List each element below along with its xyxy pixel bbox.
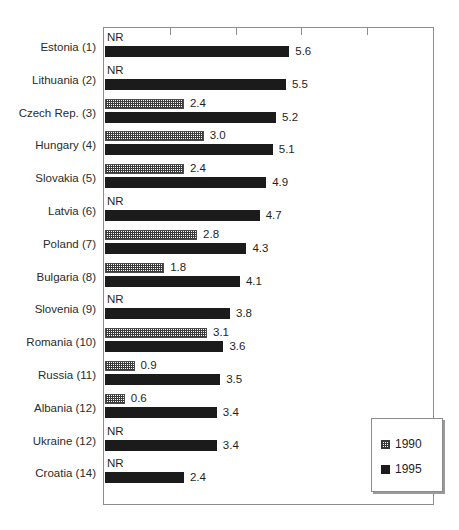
bar-1995: [105, 177, 266, 188]
legend-item-1990: 1990: [381, 437, 422, 451]
bar-1995: [105, 341, 223, 352]
bar-1995: [105, 472, 184, 483]
not-reported-label: NR: [107, 293, 124, 305]
legend-label-1995: 1995: [395, 462, 422, 476]
bar-value-label-1990: 2.4: [190, 162, 206, 174]
bar-1995: [105, 308, 230, 319]
dotted-swatch-icon: [381, 440, 390, 449]
bar-value-label-1995: 3.8: [236, 307, 252, 319]
bar-value-label-1995: 4.3: [252, 242, 268, 254]
not-reported-label: NR: [107, 457, 124, 469]
bar-value-label-1995: 3.5: [226, 373, 242, 385]
bar-group: Estonia (1)NR5.6: [103, 32, 434, 65]
bar-value-label-1995: 5.1: [279, 143, 295, 155]
bar-1990: [105, 164, 184, 174]
bar-value-label-1990: 0.9: [141, 359, 157, 371]
bar-group: Bulgaria (8)1.84.1: [103, 262, 434, 295]
not-reported-label: NR: [107, 64, 124, 76]
category-label: Croatia (14): [35, 467, 96, 479]
bar-group: Lithuania (2)NR5.5: [103, 65, 434, 98]
bar-1995: [105, 144, 273, 155]
bar-group: Latvia (6)NR4.7: [103, 196, 434, 229]
category-label: Lithuania (2): [32, 74, 96, 86]
category-label: Poland (7): [43, 238, 96, 250]
legend-item-1995: 1995: [381, 462, 422, 476]
bar-value-label-1995: 3.4: [223, 406, 239, 418]
bar-1990: [105, 328, 207, 338]
bar-value-label-1995: 4.1: [246, 275, 262, 287]
bar-1995: [105, 210, 260, 221]
not-reported-label: NR: [107, 195, 124, 207]
bar-1995: [105, 276, 240, 287]
category-label: Slovakia (5): [35, 172, 96, 184]
bar-1990: [105, 230, 197, 240]
bar-value-label-1990: 0.6: [131, 392, 147, 404]
chart-title-remnant: [0, 0, 459, 10]
bar-group: Czech Rep. (3)2.45.2: [103, 98, 434, 131]
bar-value-label-1990: 2.8: [203, 228, 219, 240]
bar-1995: [105, 79, 286, 90]
bar-value-label-1995: 3.4: [223, 439, 239, 451]
bar-1995: [105, 112, 276, 123]
solid-swatch-icon: [381, 465, 390, 474]
legend-label-1990: 1990: [395, 437, 422, 451]
category-label: Ukraine (12): [33, 435, 96, 447]
bar-value-label-1990: 1.8: [170, 261, 186, 273]
bar-1995: [105, 243, 246, 254]
category-label: Albania (12): [34, 402, 96, 414]
bar-1995: [105, 46, 289, 57]
category-label: Romania (10): [26, 336, 96, 348]
bar-1995: [105, 407, 217, 418]
bar-value-label-1990: 3.0: [210, 129, 226, 141]
category-label: Russia (11): [38, 369, 96, 381]
category-label: Estonia (1): [40, 41, 96, 53]
category-label: Hungary (4): [35, 139, 96, 151]
category-label: Slovenia (9): [35, 303, 96, 315]
bar-1990: [105, 394, 125, 404]
bar-1995: [105, 440, 217, 451]
bar-1990: [105, 131, 204, 141]
bar-value-label-1995: 2.4: [190, 471, 206, 483]
bar-group: Hungary (4)3.05.1: [103, 130, 434, 163]
category-label: Czech Rep. (3): [19, 107, 96, 119]
category-label: Latvia (6): [48, 205, 96, 217]
bar-chart: Estonia (1)NR5.6Lithuania (2)NR5.5Czech …: [0, 0, 459, 530]
bar-group: Poland (7)2.84.3: [103, 229, 434, 262]
bar-value-label-1995: 3.6: [229, 340, 245, 352]
bar-1990: [105, 99, 184, 109]
bar-value-label-1995: 4.7: [266, 209, 282, 221]
bar-group: Slovakia (5)2.44.9: [103, 163, 434, 196]
chart-legend: 1990 1995: [371, 418, 443, 492]
bar-1995: [105, 374, 220, 385]
bar-group: Slovenia (9)NR3.8: [103, 294, 434, 327]
bar-value-label-1995: 5.6: [295, 45, 311, 57]
not-reported-label: NR: [107, 425, 124, 437]
bar-value-label-1995: 5.2: [282, 111, 298, 123]
category-label: Bulgaria (8): [37, 271, 96, 283]
bar-value-label-1995: 5.5: [292, 78, 308, 90]
bar-group: Russia (11)0.93.5: [103, 360, 434, 393]
bar-1990: [105, 263, 164, 273]
bar-1990: [105, 361, 135, 371]
bar-value-label-1990: 2.4: [190, 97, 206, 109]
bar-value-label-1995: 4.9: [272, 176, 288, 188]
bar-value-label-1990: 3.1: [213, 326, 229, 338]
not-reported-label: NR: [107, 31, 124, 43]
bar-group: Romania (10)3.13.6: [103, 327, 434, 360]
